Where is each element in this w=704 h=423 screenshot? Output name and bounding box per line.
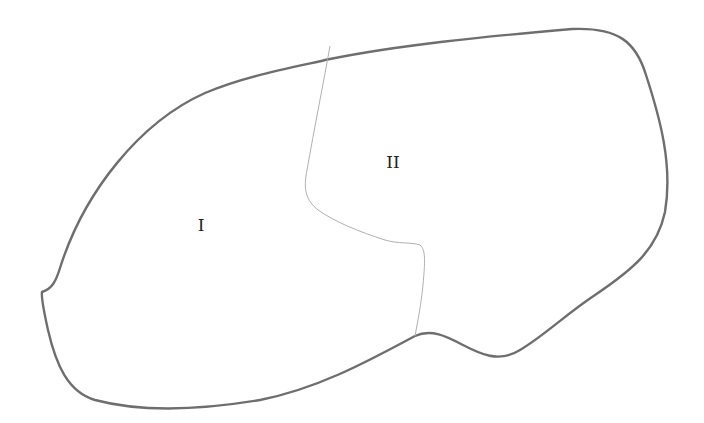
outer-outline <box>42 29 667 371</box>
shape-outline <box>42 29 667 376</box>
boundary-line <box>42 29 668 410</box>
outline <box>42 29 668 408</box>
perimeter <box>42 29 668 408</box>
region-2-label: II <box>386 152 399 172</box>
region-divider <box>305 46 424 336</box>
outer-boundary <box>42 28 669 380</box>
region-1-label: I <box>198 215 205 235</box>
final-outline <box>42 29 668 408</box>
region-outline <box>42 29 667 407</box>
organ-outline <box>42 29 668 408</box>
diagram-canvas <box>0 0 704 423</box>
main-outline <box>42 29 668 408</box>
contour <box>42 29 667 366</box>
shape-boundary <box>42 29 668 408</box>
boundary-outline <box>42 29 668 408</box>
outline-path <box>42 29 667 377</box>
